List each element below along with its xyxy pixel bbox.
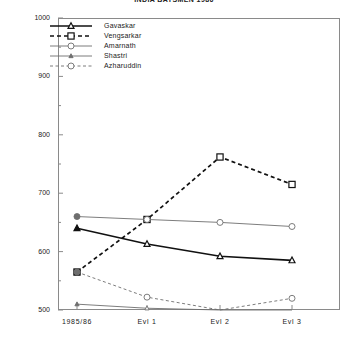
legend-key-azharuddin-icon bbox=[48, 61, 94, 71]
legend-item-azharuddin[interactable]: Azharuddin bbox=[48, 61, 141, 71]
y-axis-tick-label: 800 bbox=[20, 131, 50, 139]
legend-label: Vengsarkar bbox=[104, 31, 141, 41]
x-axis-tick-label: 1985/86 bbox=[37, 317, 117, 326]
legend-key-vengsarkar-icon bbox=[48, 31, 94, 41]
series-shastri bbox=[75, 302, 292, 310]
legend-item-shastri[interactable]: Shastri bbox=[48, 51, 141, 61]
legend-label: Gavaskar bbox=[104, 21, 136, 31]
legend-item-gavaskar[interactable]: Gavaskar bbox=[48, 21, 141, 31]
legend-item-amarnath[interactable]: Amarnath bbox=[48, 41, 141, 51]
x-axis-tick-label: Evl 3 bbox=[252, 317, 332, 326]
chart-container: INDIA BATSMEN 1986 5006007008009001000 1… bbox=[0, 0, 348, 337]
series-gavaskar bbox=[74, 225, 295, 263]
y-axis-tick-label: 600 bbox=[20, 248, 50, 256]
y-axis-tick-label: 500 bbox=[20, 306, 50, 314]
series-amarnath bbox=[74, 214, 295, 230]
series-vengsarkar bbox=[74, 154, 295, 275]
x-axis-tick-label: Evl 1 bbox=[107, 317, 187, 326]
legend-key-amarnath-icon bbox=[48, 41, 94, 51]
y-axis-tick-label: 700 bbox=[20, 189, 50, 197]
x-axis-tick-label: Evl 2 bbox=[180, 317, 260, 326]
legend-key-gavaskar-icon bbox=[48, 21, 94, 31]
chart-legend: GavaskarVengsarkarAmarnathShastriAzharud… bbox=[48, 21, 141, 71]
series-layer bbox=[74, 154, 295, 310]
series-azharuddin bbox=[74, 269, 295, 310]
y-axis-tick-label: 1000 bbox=[20, 14, 50, 22]
y-axis-tick-label: 900 bbox=[20, 72, 50, 80]
legend-item-vengsarkar[interactable]: Vengsarkar bbox=[48, 31, 141, 41]
legend-label: Azharuddin bbox=[104, 61, 141, 71]
legend-label: Amarnath bbox=[104, 41, 136, 51]
legend-label: Shastri bbox=[104, 51, 127, 61]
legend-key-shastri-icon bbox=[48, 51, 94, 61]
